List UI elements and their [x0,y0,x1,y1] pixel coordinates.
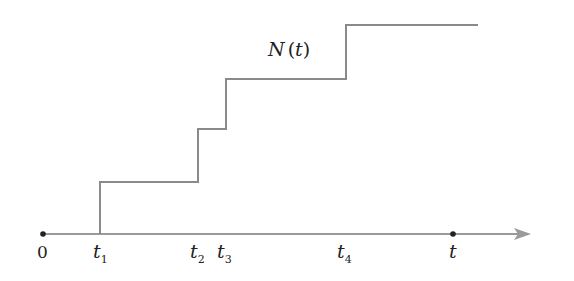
event-time-label-1: t1 [93,240,108,266]
axis-end-label: t [449,240,457,262]
time-t-dot [450,231,456,237]
event-time-label-4: t4 [337,240,352,266]
origin-dot [40,231,46,237]
curve-label: N(t) [267,38,310,60]
event-time-label-2: t2 [190,240,205,266]
origin-label: 0 [37,242,48,262]
counting-process-diagram: N(t) 0 t1 t2 t3 t4 t [0,0,574,281]
event-time-label-3: t3 [217,240,232,266]
